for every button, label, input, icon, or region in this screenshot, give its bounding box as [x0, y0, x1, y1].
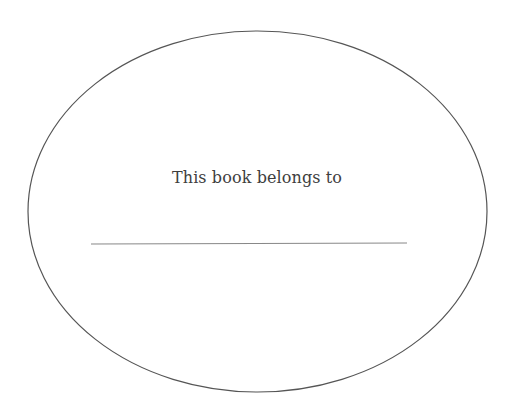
bookplate-title: This book belongs to: [0, 168, 514, 187]
bookplate-shape: [0, 0, 514, 412]
name-line: [91, 243, 407, 244]
oval-border: [28, 31, 487, 392]
bookplate: This book belongs to: [0, 0, 514, 412]
